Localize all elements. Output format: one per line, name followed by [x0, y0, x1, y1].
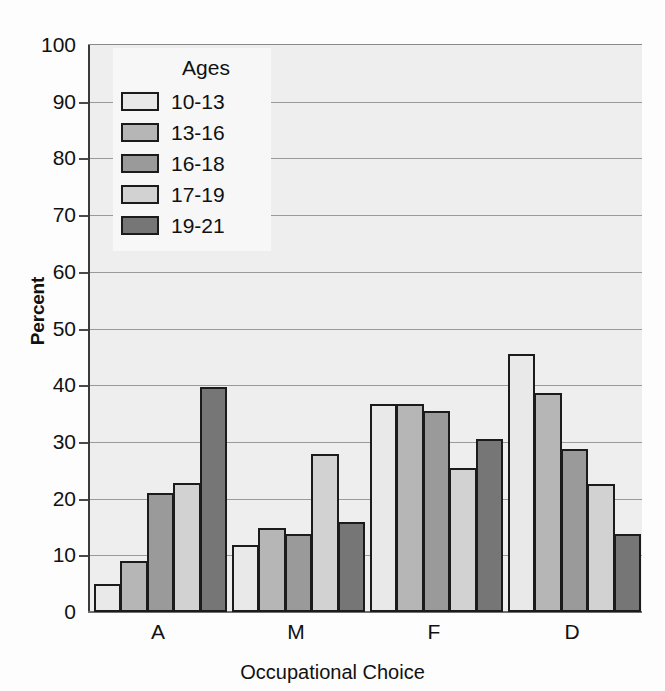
y-tick-mark	[79, 385, 88, 387]
y-tick-mark	[79, 102, 88, 104]
legend-item: 10-13	[121, 86, 263, 117]
bar	[534, 393, 562, 612]
bar	[338, 522, 366, 612]
y-tick-label: 100	[14, 33, 76, 57]
bar	[120, 561, 148, 612]
bar-chart-figure: Percent 0102030405060708090100 AMFD Occu…	[0, 0, 665, 691]
bar	[232, 545, 260, 612]
x-tick-label: D	[564, 620, 579, 644]
x-tick-label: A	[151, 620, 165, 644]
gridline	[90, 329, 642, 330]
y-tick-mark	[79, 555, 88, 557]
y-tick-mark	[79, 215, 88, 217]
y-tick-mark	[79, 158, 88, 160]
y-tick-label: 70	[14, 203, 76, 227]
bar	[561, 449, 589, 612]
legend-swatch	[121, 185, 159, 204]
x-tick-label: F	[428, 620, 441, 644]
bar	[311, 454, 339, 612]
y-tick-mark	[79, 329, 88, 331]
legend-item-label: 19-21	[171, 214, 225, 238]
y-tick-label: 20	[14, 487, 76, 511]
bar	[423, 411, 451, 612]
bar	[396, 404, 424, 612]
legend: Ages 10-1313-1616-1817-1919-21	[113, 48, 271, 251]
legend-swatch	[121, 92, 159, 111]
bar	[94, 584, 122, 612]
y-tick-label: 50	[14, 317, 76, 341]
gridline	[90, 385, 642, 386]
bar	[285, 534, 313, 612]
y-tick-label: 90	[14, 90, 76, 114]
bar	[370, 404, 398, 612]
y-tick-label: 40	[14, 373, 76, 397]
legend-item-label: 10-13	[171, 90, 225, 114]
bar	[200, 387, 228, 612]
legend-item-label: 13-16	[171, 121, 225, 145]
legend-swatch	[121, 154, 159, 173]
legend-item: 19-21	[121, 210, 263, 241]
legend-item: 17-19	[121, 179, 263, 210]
bar	[147, 493, 175, 612]
legend-item-label: 17-19	[171, 183, 225, 207]
bar	[476, 439, 504, 613]
bar	[508, 354, 536, 612]
legend-items: 10-1313-1616-1817-1919-21	[121, 86, 263, 241]
x-axis-title: Occupational Choice	[0, 661, 665, 684]
legend-item: 16-18	[121, 148, 263, 179]
y-tick-label: 60	[14, 260, 76, 284]
legend-swatch	[121, 123, 159, 142]
y-tick-label: 0	[14, 600, 76, 624]
bar	[449, 468, 477, 612]
y-tick-mark	[79, 442, 88, 444]
x-tick-label: M	[287, 620, 305, 644]
legend-swatch	[121, 216, 159, 235]
y-tick-label: 10	[14, 543, 76, 567]
y-tick-label: 30	[14, 430, 76, 454]
bar	[587, 484, 615, 612]
y-tick-label: 80	[14, 146, 76, 170]
y-tick-mark	[79, 272, 88, 274]
gridline	[90, 272, 642, 273]
legend-title: Ages	[149, 56, 263, 80]
bar	[173, 483, 201, 612]
y-tick-mark	[79, 499, 88, 501]
bar	[614, 534, 642, 612]
legend-item: 13-16	[121, 117, 263, 148]
bar	[258, 528, 286, 612]
legend-item-label: 16-18	[171, 152, 225, 176]
